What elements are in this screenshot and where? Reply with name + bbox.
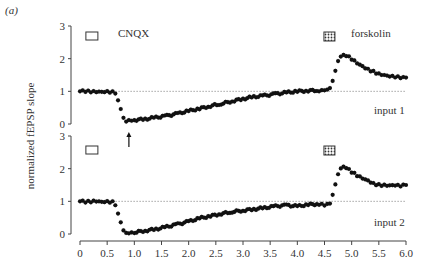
legend-forskolin-label: forskolin <box>351 27 391 39</box>
svg-text:3: 3 <box>60 130 66 142</box>
svg-text:2.5: 2.5 <box>209 247 223 259</box>
svg-text:1.0: 1.0 <box>127 247 141 259</box>
svg-text:2.0: 2.0 <box>182 247 196 259</box>
y-axis-label: normalized fEPSP slope <box>24 56 36 216</box>
input-1-label: input 1 <box>374 104 405 116</box>
svg-text:0: 0 <box>77 247 83 259</box>
svg-text:5.5: 5.5 <box>372 247 386 259</box>
svg-text:0: 0 <box>60 118 66 130</box>
svg-text:0: 0 <box>60 228 66 240</box>
svg-text:3: 3 <box>60 20 66 32</box>
reference-lines <box>113 91 406 201</box>
svg-text:1: 1 <box>60 195 66 207</box>
chart-canvas: 0123012300.51.01.52.02.53.03.54.04.55.05… <box>0 0 433 269</box>
svg-text:2: 2 <box>60 53 66 65</box>
svg-text:2: 2 <box>60 163 66 175</box>
svg-text:4.5: 4.5 <box>318 247 332 259</box>
data-points <box>78 52 408 235</box>
svg-text:6.0: 6.0 <box>399 247 413 259</box>
legend-cnqx-label: CNQX <box>118 27 149 39</box>
input-2-label: input 2 <box>374 216 405 228</box>
svg-text:5.0: 5.0 <box>345 247 359 259</box>
svg-text:3.5: 3.5 <box>263 247 277 259</box>
axes: 0123012300.51.01.52.02.53.03.54.04.55.05… <box>60 20 414 259</box>
svg-text:1: 1 <box>60 85 66 97</box>
svg-text:3.0: 3.0 <box>236 247 250 259</box>
svg-text:4.0: 4.0 <box>290 247 304 259</box>
svg-text:0.5: 0.5 <box>100 247 114 259</box>
svg-text:1.5: 1.5 <box>155 247 169 259</box>
panel-label: (a) <box>5 4 18 16</box>
